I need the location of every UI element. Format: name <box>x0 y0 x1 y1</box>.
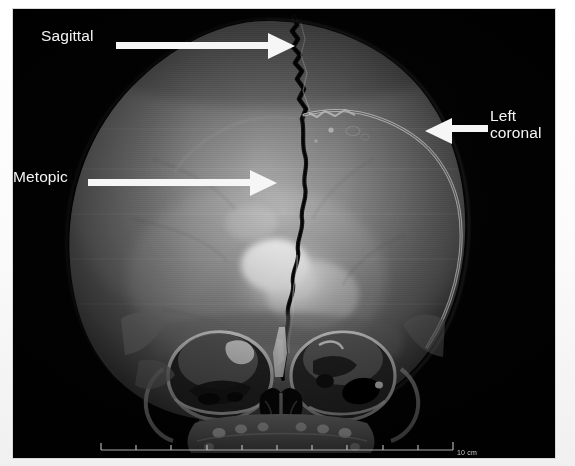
scale-bar-label: 10 cm <box>457 449 477 456</box>
ct-screenshot-root: 10 cm Sagittal Metopic Left coronal <box>0 0 575 466</box>
ct-image-panel: 10 cm <box>13 9 555 458</box>
scale-ruler <box>13 9 555 458</box>
